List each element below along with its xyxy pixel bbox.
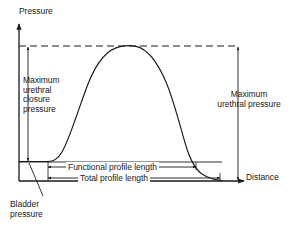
distance-axis-label: Distance bbox=[246, 173, 279, 183]
total-profile-length-label: Total profile length bbox=[78, 173, 150, 183]
bladder-pressure-leader-line bbox=[29, 163, 43, 196]
urethral-pressure-profile-diagram: Pressure Distance Maximum urethral closu… bbox=[0, 0, 297, 231]
functional-profile-length-label: Functional profile length bbox=[66, 162, 159, 172]
diagram-canvas bbox=[0, 0, 297, 231]
pressure-axis-label: Pressure bbox=[19, 7, 53, 17]
maximum-urethral-pressure-label: Maximum urethral pressure bbox=[205, 90, 293, 109]
bladder-pressure-label: Bladder pressure bbox=[10, 200, 66, 219]
maximum-urethral-closure-pressure-label: Maximum urethral closure pressure bbox=[23, 76, 60, 114]
